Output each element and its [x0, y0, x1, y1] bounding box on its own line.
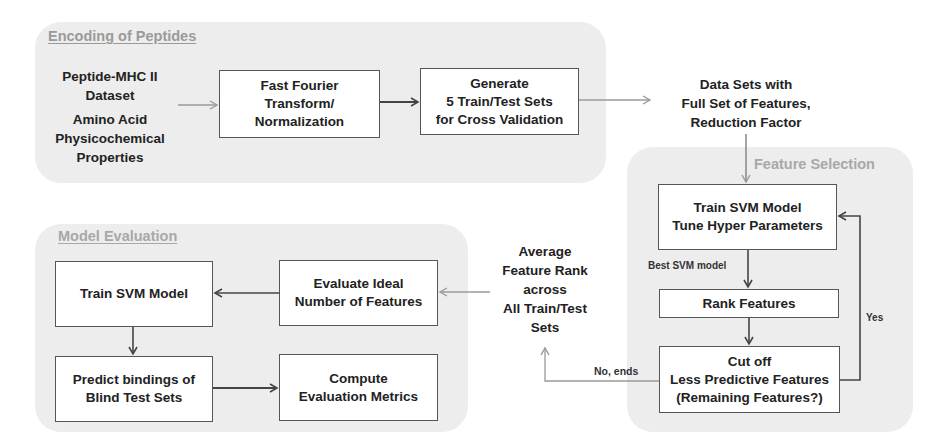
predict-bindings-label: Predict bindings of Blind Test Sets	[73, 371, 195, 407]
arrow-yes-loop	[839, 216, 860, 380]
input-peptide-dataset: Peptide-MHC II Dataset	[40, 67, 180, 105]
fft-normalization-label: Fast Fourier Transform/ Normalization	[255, 77, 344, 131]
generate-train-test-label: Generate 5 Train/Test Sets for Cross Val…	[436, 75, 564, 129]
yes-label: Yes	[866, 312, 883, 323]
cutoff-features-box: Cut off Less Predictive Features (Remain…	[659, 346, 840, 413]
best-svm-model-label: Best SVM model	[648, 260, 726, 271]
input-amino-acid-properties: Amino Acid Physicochemical Properties	[40, 110, 180, 167]
cutoff-features-label: Cut off Less Predictive Features (Remain…	[670, 353, 829, 407]
rank-features-box: Rank Features	[659, 289, 839, 318]
evaluate-ideal-features-box: Evaluate Ideal Number of Features	[279, 260, 438, 326]
me-train-svm-box: Train SVM Model	[55, 261, 213, 327]
me-train-svm-label: Train SVM Model	[80, 285, 188, 303]
generate-train-test-box: Generate 5 Train/Test Sets for Cross Val…	[420, 68, 579, 135]
average-feature-rank-text: Average Feature Rank across All Train/Te…	[480, 242, 610, 337]
evaluate-ideal-features-label: Evaluate Ideal Number of Features	[295, 275, 423, 311]
compute-metrics-box: Compute Evaluation Metrics	[279, 354, 438, 421]
rank-features-label: Rank Features	[702, 295, 795, 313]
fs-train-svm-label: Train SVM Model Tune Hyper Parameters	[672, 199, 823, 235]
fft-normalization-box: Fast Fourier Transform/ Normalization	[219, 70, 380, 138]
fs-train-svm-box: Train SVM Model Tune Hyper Parameters	[658, 184, 837, 250]
predict-bindings-box: Predict bindings of Blind Test Sets	[55, 356, 213, 422]
compute-metrics-label: Compute Evaluation Metrics	[299, 370, 418, 406]
datasets-text: Data Sets with Full Set of Features, Red…	[660, 75, 832, 132]
no-ends-label: No, ends	[594, 365, 638, 377]
